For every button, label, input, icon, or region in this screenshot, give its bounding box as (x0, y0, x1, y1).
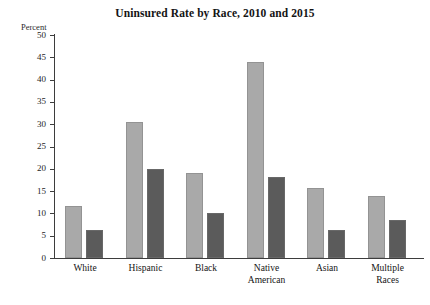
bar-2010 (65, 206, 82, 258)
bar-2015 (389, 220, 406, 258)
bar-group (120, 35, 178, 258)
bar-2015 (268, 177, 285, 258)
y-axis-tick-label: 30 (20, 120, 46, 129)
x-axis-category-label: Multiple Races (348, 263, 428, 286)
y-axis-tick-label: 50 (20, 31, 46, 40)
y-axis-tick-label: 20 (20, 164, 46, 173)
y-axis-tick (50, 258, 55, 259)
y-axis-tick-label: 40 (20, 75, 46, 84)
y-axis-tick-label: 25 (20, 142, 46, 151)
bar-2010 (307, 188, 324, 258)
plot-area (55, 35, 423, 258)
chart-title: Uninsured Rate by Race, 2010 and 2015 (0, 7, 430, 19)
bar-2010 (126, 122, 143, 258)
bar-group (59, 35, 117, 258)
bar-group (362, 35, 420, 258)
bar-2015 (207, 213, 224, 258)
y-axis-tick-label: 0 (20, 254, 46, 263)
bar-group (241, 35, 299, 258)
y-axis-tick-label: 45 (20, 53, 46, 62)
bar-2010 (368, 196, 385, 258)
bar-2015 (328, 230, 345, 258)
y-axis-tick-label: 10 (20, 209, 46, 218)
bar-group (301, 35, 359, 258)
bar-2010 (247, 62, 264, 258)
bar-chart-figure: Uninsured Rate by Race, 2010 and 2015 Pe… (0, 0, 430, 305)
bar-2015 (86, 230, 103, 258)
x-axis-line (54, 258, 424, 259)
y-axis-tick-label: 15 (20, 187, 46, 196)
y-axis-tick-label: 5 (20, 231, 46, 240)
bar-2015 (147, 169, 164, 258)
bar-group (180, 35, 238, 258)
bar-2010 (186, 173, 203, 258)
y-axis-tick-label: 35 (20, 97, 46, 106)
